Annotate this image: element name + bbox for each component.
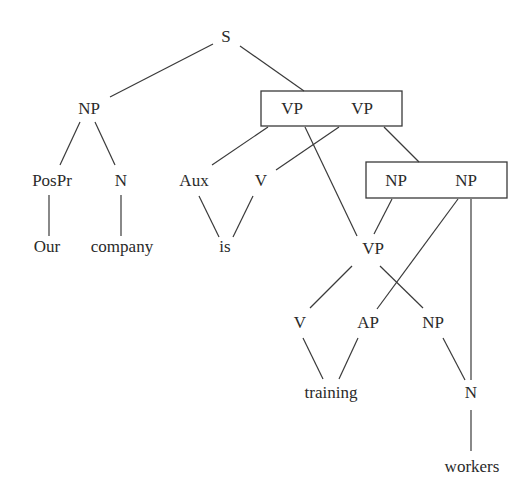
node-vp-box-right: VP xyxy=(351,99,373,118)
node-v-is: V xyxy=(255,171,268,190)
word-company: company xyxy=(91,237,154,256)
node-n-object: N xyxy=(465,383,477,402)
tree-nodes: S NP VP VP PosPr N Aux V NP NP Our compa… xyxy=(32,27,499,476)
node-np-object: NP xyxy=(422,313,444,332)
edge-vpbox-npbox xyxy=(384,127,419,162)
edge-vpbox-vplower xyxy=(305,127,357,236)
edge-aux-is xyxy=(199,196,219,237)
edge-s-vpbox xyxy=(240,46,304,91)
node-np-box-right: NP xyxy=(455,171,477,190)
edge-np-pospr xyxy=(60,122,80,165)
edge-vplower-v xyxy=(310,266,352,308)
edge-vpbox-aux xyxy=(212,127,268,165)
node-ap: AP xyxy=(357,313,379,332)
word-workers: workers xyxy=(445,457,500,476)
node-v-training: V xyxy=(294,313,307,332)
word-our: Our xyxy=(34,237,61,256)
node-pospr: PosPr xyxy=(32,171,72,190)
edge-s-np xyxy=(110,44,213,97)
edge-ap-training xyxy=(339,338,358,379)
edge-np-n xyxy=(95,122,115,165)
edge-np-n-object xyxy=(443,338,465,380)
word-training: training xyxy=(305,383,358,402)
edge-v-is xyxy=(233,196,253,237)
edge-npbox-vplower xyxy=(374,199,392,234)
node-vp-lower: VP xyxy=(362,239,384,258)
node-np-subject: NP xyxy=(78,99,100,118)
syntax-tree-diagram: S NP VP VP PosPr N Aux V NP NP Our compa… xyxy=(0,0,529,497)
node-s: S xyxy=(221,27,230,46)
node-aux: Aux xyxy=(179,171,209,190)
node-np-box-left: NP xyxy=(385,171,407,190)
node-n-subject: N xyxy=(115,171,127,190)
node-vp-box-left: VP xyxy=(281,99,303,118)
word-is: is xyxy=(219,237,230,256)
edge-npbox-ap xyxy=(377,199,458,309)
edge-vplower-np xyxy=(380,266,423,308)
edge-v-training xyxy=(303,338,323,379)
